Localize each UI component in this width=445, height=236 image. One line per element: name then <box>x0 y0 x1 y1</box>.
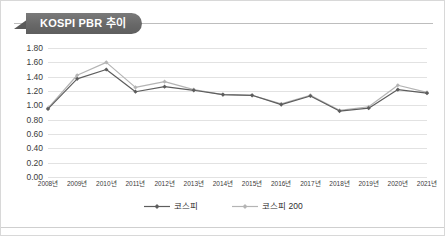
chart-legend: 코스피코스피 200 <box>1 202 445 211</box>
legend-entry[interactable]: 코스피 200 <box>232 202 303 211</box>
x-axis-tick-label: 2014년 <box>213 180 233 187</box>
x-axis-tick-label: 2012년 <box>154 180 174 187</box>
page-title: KOSPI PBR 추이 <box>40 18 126 29</box>
legend-label: 코스피 200 <box>262 202 303 211</box>
chart-title-band: KOSPI PBR 추이 <box>14 13 433 35</box>
legend-marker-icon <box>232 202 258 211</box>
data-point-marker <box>250 93 254 97</box>
chart-lines <box>48 48 427 177</box>
data-point-marker <box>163 85 167 89</box>
y-axis-tick-label: 0.20 <box>26 159 43 168</box>
x-axis-tick-label: 2011년 <box>125 180 145 187</box>
y-axis-tick-label: 1.20 <box>26 87 43 96</box>
x-axis-tick-label: 2016년 <box>271 180 291 187</box>
data-point-marker <box>163 80 167 84</box>
y-axis-tick-label: 1.40 <box>26 73 43 82</box>
y-axis-tick-label: 1.60 <box>26 58 43 67</box>
legend-entry[interactable]: 코스피 <box>144 202 198 211</box>
x-axis-tick-label: 2010년 <box>96 180 116 187</box>
x-axis-tick-label: 2008년 <box>38 180 58 187</box>
x-axis-tick-label: 2015년 <box>242 180 262 187</box>
x-axis-tick-label: 2020년 <box>388 180 408 187</box>
title-ribbon: KOSPI PBR 추이 <box>26 13 142 34</box>
legend-marker-icon <box>144 202 170 211</box>
footer-divider-rule <box>1 227 445 228</box>
y-axis-tick-label: 1.00 <box>26 101 43 110</box>
gridline <box>48 177 427 178</box>
x-axis-tick-label: 2009년 <box>67 180 87 187</box>
x-axis-tick-label: 2018년 <box>329 180 349 187</box>
x-axis-tick-label: 2017년 <box>300 180 320 187</box>
legend-label: 코스피 <box>174 202 198 211</box>
y-axis-tick-label: 0.80 <box>26 116 43 125</box>
data-point-marker <box>308 94 312 98</box>
y-axis-tick-labels: 0.000.200.400.600.801.001.201.401.601.80 <box>9 48 43 177</box>
x-axis-tick-label: 2013년 <box>184 180 204 187</box>
plot-area <box>48 48 427 177</box>
y-axis-tick-label: 1.80 <box>26 44 43 53</box>
x-axis-tick-label: 2019년 <box>358 180 378 187</box>
y-axis-tick-label: 0.60 <box>26 130 43 139</box>
chart-figure: KOSPI PBR 추이 0.000.200.400.600.801.001.2… <box>0 0 445 236</box>
y-axis-tick-label: 0.40 <box>26 144 43 153</box>
data-point-marker <box>221 92 225 96</box>
x-axis-tick-label: 2021년 <box>417 180 437 187</box>
x-axis-tick-labels: 2008년2009년2010년2011년2012년2013년2014년2015년… <box>48 180 427 194</box>
series-line <box>48 70 427 112</box>
